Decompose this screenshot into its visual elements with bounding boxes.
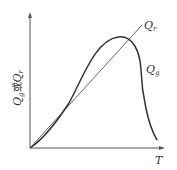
chart-svg: Qr Qg T Qg或Qr: [0, 0, 177, 170]
y-axis-label: Qg或Qr: [11, 69, 25, 106]
x-axis-arrow-icon: [159, 146, 165, 150]
line-label-qr: Qr: [144, 19, 157, 33]
qr-line: [30, 25, 142, 148]
x-axis-label: T: [155, 154, 164, 167]
curve-label-qg: Qg: [146, 63, 160, 77]
svg-text:Qg或Qr: Qg或Qr: [11, 69, 25, 106]
y-axis-arrow-icon: [28, 12, 32, 18]
chart-figure: Qr Qg T Qg或Qr: [0, 0, 177, 170]
qg-curve: [30, 37, 157, 148]
